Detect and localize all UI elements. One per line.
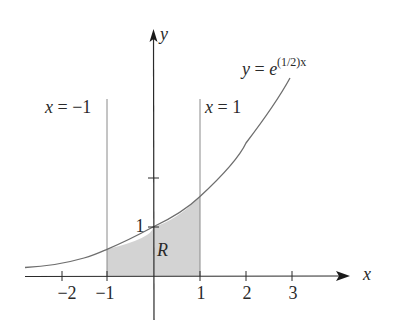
y-tick-label-1: 1 (136, 216, 145, 236)
equation-label: y = e (240, 59, 277, 79)
x-tick-label-neg2: −2 (57, 283, 76, 303)
right-line-label: x = 1 (204, 97, 241, 117)
graph-figure: −2 −1 1 2 3 1 x y R x = −1 x = 1 y = e (… (0, 0, 393, 331)
x-tick-label-1: 1 (197, 283, 206, 303)
equation-exponent: (1/2)x (277, 55, 306, 69)
y-axis-label: y (158, 24, 168, 44)
left-line-label: x = −1 (44, 97, 91, 117)
x-axis-label: x (362, 264, 371, 284)
region-label: R (156, 240, 168, 260)
x-tick-label-neg1: −1 (95, 283, 114, 303)
x-tick-label-3: 3 (289, 283, 298, 303)
x-tick-label-2: 2 (243, 283, 252, 303)
x-axis (25, 276, 342, 277)
